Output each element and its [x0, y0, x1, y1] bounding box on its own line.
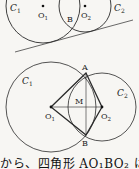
caption-text: から、四角形 AO₁BO₂ は	[0, 154, 139, 169]
label-c1-bottom: C1	[22, 76, 33, 87]
center-o2-dot-bottom	[101, 106, 104, 109]
label-c1-top: C1	[10, 3, 21, 14]
label-c2-bottom: C2	[117, 88, 128, 99]
label-o1-bottom: O1	[45, 112, 55, 122]
center-o1-dot-top	[42, 5, 45, 8]
label-o2-top: O2	[81, 11, 91, 21]
label-a: A	[81, 63, 88, 72]
label-o1-top: O1	[38, 11, 48, 21]
label-m: M	[75, 97, 83, 106]
label-b-bottom: B	[82, 139, 88, 148]
label-b-top: B	[67, 15, 73, 24]
geometry-figures: C1 C2 O1 O2 B C1 C2 O1 O2 A B M	[0, 0, 139, 169]
center-o1-dot-bottom	[50, 106, 53, 109]
label-c2-top: C2	[114, 3, 125, 14]
center-o2-dot-top	[84, 5, 87, 8]
label-o2-bottom: O2	[101, 112, 111, 122]
tangent-line	[15, 20, 133, 52]
